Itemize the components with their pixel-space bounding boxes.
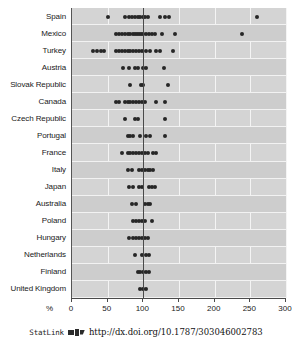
category-label-canada: Canada: [0, 97, 66, 106]
data-point: [138, 134, 142, 138]
x-tick-label: 50: [102, 304, 111, 313]
statlink-barcode-icon: [68, 329, 85, 336]
data-point: [144, 287, 148, 291]
data-point: [130, 168, 134, 172]
x-tick-label: 300: [278, 304, 291, 313]
chart-figure: SpainMexicoTurkeyAustriaSlovak RepublicC…: [0, 0, 292, 342]
category-label-finland: Finland: [0, 267, 66, 276]
category-label-spain: Spain: [0, 12, 66, 21]
data-point: [127, 66, 131, 70]
data-point: [171, 49, 175, 53]
data-point: [121, 66, 125, 70]
figure-footer: StatLink http://dx.doi.org/10.1787/30304…: [0, 325, 292, 339]
data-point: [158, 49, 162, 53]
data-point: [117, 100, 121, 104]
data-point: [136, 117, 140, 121]
x-tick-mark: [285, 298, 286, 302]
data-point: [131, 185, 135, 189]
x-tick-mark: [107, 298, 108, 302]
data-point: [144, 66, 148, 70]
category-label-czech-republic: Czech Republic: [0, 114, 66, 123]
data-point: [106, 15, 110, 19]
x-gridline: [286, 8, 287, 298]
data-point: [167, 15, 171, 19]
plot-row-band: [72, 213, 286, 230]
statlink-url[interactable]: http://dx.doi.org/10.1787/303046002783: [89, 327, 263, 337]
x-tick-label: 200: [207, 304, 220, 313]
data-point: [148, 134, 152, 138]
data-point: [153, 185, 157, 189]
data-point: [160, 32, 164, 36]
plot-area: [71, 8, 286, 298]
category-label-italy: Italy: [0, 165, 66, 174]
data-point: [146, 236, 150, 240]
category-label-hungary: Hungary: [0, 233, 66, 242]
data-point: [102, 49, 106, 53]
data-point: [163, 100, 167, 104]
data-point: [148, 49, 152, 53]
x-tick-mark: [178, 298, 179, 302]
data-point: [255, 15, 259, 19]
data-point: [153, 32, 157, 36]
data-point: [166, 83, 170, 87]
statlink-label: StatLink: [29, 328, 64, 337]
data-point: [123, 117, 127, 121]
plot-row-band: [72, 110, 286, 127]
data-point: [136, 66, 140, 70]
plot-row-band: [72, 59, 286, 76]
category-label-japan: Japan: [0, 182, 66, 191]
data-point: [146, 151, 150, 155]
data-point: [131, 134, 135, 138]
category-label-portugal: Portugal: [0, 131, 66, 140]
data-point: [151, 168, 155, 172]
x-tick-label: 0: [69, 304, 73, 313]
data-point: [154, 151, 158, 155]
plot-row-band: [72, 127, 286, 144]
plot-row-band: [72, 93, 286, 110]
data-point: [173, 32, 177, 36]
data-point: [163, 134, 167, 138]
plot-row-band: [72, 281, 286, 298]
plot-row-band: [72, 264, 286, 281]
x-tick-mark: [142, 298, 143, 302]
category-label-france: France: [0, 148, 66, 157]
category-label-column: SpainMexicoTurkeyAustriaSlovak RepublicC…: [0, 8, 66, 298]
plot-row-band: [72, 162, 286, 179]
category-label-turkey: Turkey: [0, 46, 66, 55]
category-label-slovak-republic: Slovak Republic: [0, 80, 66, 89]
category-label-mexico: Mexico: [0, 29, 66, 38]
plot-row-band: [72, 76, 286, 93]
x-tick-mark: [249, 298, 250, 302]
x-tick-mark: [214, 298, 215, 302]
data-point: [146, 15, 150, 19]
x-tick-label: 150: [171, 304, 184, 313]
data-point: [148, 202, 152, 206]
category-label-australia: Australia: [0, 199, 66, 208]
data-point: [133, 253, 137, 257]
x-axis-unit-label: %: [46, 304, 53, 313]
x-tick-mark: [71, 298, 72, 302]
data-point: [240, 32, 244, 36]
data-point: [162, 66, 166, 70]
category-label-poland: Poland: [0, 216, 66, 225]
data-point: [150, 219, 154, 223]
data-point: [163, 117, 167, 121]
plot-row-band: [72, 230, 286, 247]
x-tick-label: 250: [243, 304, 256, 313]
category-label-austria: Austria: [0, 63, 66, 72]
plot-row-band: [72, 25, 286, 42]
category-label-united-kingdom: United Kingdom: [0, 284, 66, 293]
category-label-netherlands: Netherlands: [0, 250, 66, 259]
plot-row-band: [72, 144, 286, 161]
plot-row-band: [72, 179, 286, 196]
data-point: [134, 202, 138, 206]
data-point: [120, 151, 124, 155]
reference-line-100: [143, 8, 144, 298]
plot-row-band: [72, 196, 286, 213]
data-point: [154, 100, 158, 104]
x-tick-label: 100: [136, 304, 149, 313]
data-point: [147, 253, 151, 257]
data-point: [128, 83, 132, 87]
plot-row-band: [72, 247, 286, 264]
data-point: [147, 270, 151, 274]
